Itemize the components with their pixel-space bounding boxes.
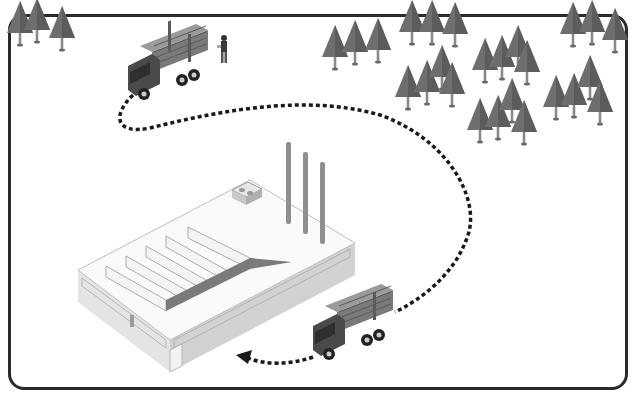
forest-left-icon: [7, 0, 75, 52]
loaded-log-truck-icon: [313, 284, 393, 360]
worker-icon: [217, 35, 227, 63]
forest-icon: [322, 0, 628, 146]
loaded-log-truck-icon: [128, 20, 208, 100]
logistics-illustration: [0, 0, 635, 399]
arrowhead-icon: [236, 350, 252, 364]
route-path-to-factory: [248, 357, 313, 363]
